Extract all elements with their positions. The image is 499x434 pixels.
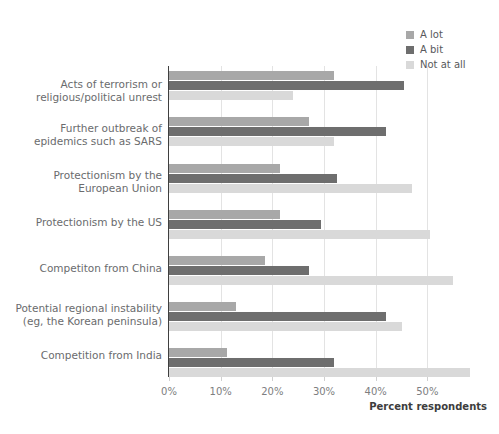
category-label-0: Acts of terrorism or religious/political… (2, 78, 162, 104)
category-label-6: Competition from India (2, 349, 162, 362)
bar-group-6 (169, 348, 479, 378)
legend-swatch-icon (406, 46, 414, 54)
bar-3-1 (169, 220, 321, 229)
bar-2-2 (169, 184, 412, 193)
category-label-4: Competiton from China (2, 262, 162, 275)
bar-5-0 (169, 302, 236, 311)
category-label-3: Protectionism by the US (2, 216, 162, 229)
x-tick-label-30: 30% (313, 386, 335, 397)
x-tick-label-10: 10% (210, 386, 232, 397)
bar-1-0 (169, 117, 309, 126)
bar-2-0 (169, 164, 280, 173)
bar-group-3 (169, 210, 479, 240)
bar-group-2 (169, 164, 479, 194)
x-tick-label-50: 50% (416, 386, 438, 397)
category-label-line: Competiton from China (2, 262, 162, 275)
x-axis-title: Percent respondents (369, 401, 487, 412)
category-label-line: Acts of terrorism or (2, 78, 162, 91)
bar-5-2 (169, 322, 402, 331)
legend-item-a-lot: A lot (406, 28, 466, 41)
bar-4-2 (169, 276, 453, 285)
bar-0-1 (169, 81, 404, 90)
category-label-line: European Union (2, 182, 162, 195)
x-tick-mark-20 (272, 377, 273, 381)
bar-3-0 (169, 210, 280, 219)
bar-4-0 (169, 256, 265, 265)
legend-item-a-bit: A bit (406, 43, 466, 56)
bar-6-1 (169, 358, 334, 367)
category-label-1: Further outbreak of epidemics such as SA… (2, 122, 162, 148)
x-tick-mark-50 (427, 377, 428, 381)
category-axis-labels: Acts of terrorism or religious/political… (0, 0, 162, 434)
bar-1-1 (169, 127, 386, 136)
category-label-line: Competition from India (2, 349, 162, 362)
category-label-line: epidemics such as SARS (2, 135, 162, 148)
bar-1-2 (169, 137, 334, 146)
bar-5-1 (169, 312, 386, 321)
legend-label: A lot (420, 29, 443, 40)
x-tick-label-0: 0% (161, 386, 177, 397)
x-tick-mark-10 (221, 377, 222, 381)
bar-6-0 (169, 348, 227, 357)
x-tick-mark-30 (324, 377, 325, 381)
category-label-line: religious/political unrest (2, 91, 162, 104)
bar-0-2 (169, 91, 293, 100)
category-label-line: Protectionism by the US (2, 216, 162, 229)
bar-group-4 (169, 256, 479, 286)
plot-bars (169, 66, 479, 376)
y-axis-line (168, 66, 169, 377)
bar-group-0 (169, 71, 479, 101)
x-tick-mark-40 (376, 377, 377, 381)
bar-0-0 (169, 71, 334, 80)
bar-4-1 (169, 266, 309, 275)
bar-2-1 (169, 174, 337, 183)
category-label-line: Further outbreak of (2, 122, 162, 135)
legend-label: A bit (420, 44, 443, 55)
legend-swatch-icon (406, 31, 414, 39)
bar-6-2 (169, 368, 470, 377)
category-label-line: Potential regional instability (2, 302, 162, 315)
x-tick-mark-0 (169, 377, 170, 381)
bar-3-2 (169, 230, 430, 239)
bar-group-1 (169, 117, 479, 147)
bar-group-5 (169, 302, 479, 332)
category-label-line: (eg, the Korean peninsula) (2, 315, 162, 328)
x-tick-label-20: 20% (261, 386, 283, 397)
category-label-5: Potential regional instability (eg, the … (2, 302, 162, 328)
bar-chart: A lot A bit Not at all Acts of terrorism… (0, 0, 499, 434)
category-label-line: Protectionism by the (2, 169, 162, 182)
x-tick-label-40: 40% (365, 386, 387, 397)
category-label-2: Protectionism by the European Union (2, 169, 162, 195)
